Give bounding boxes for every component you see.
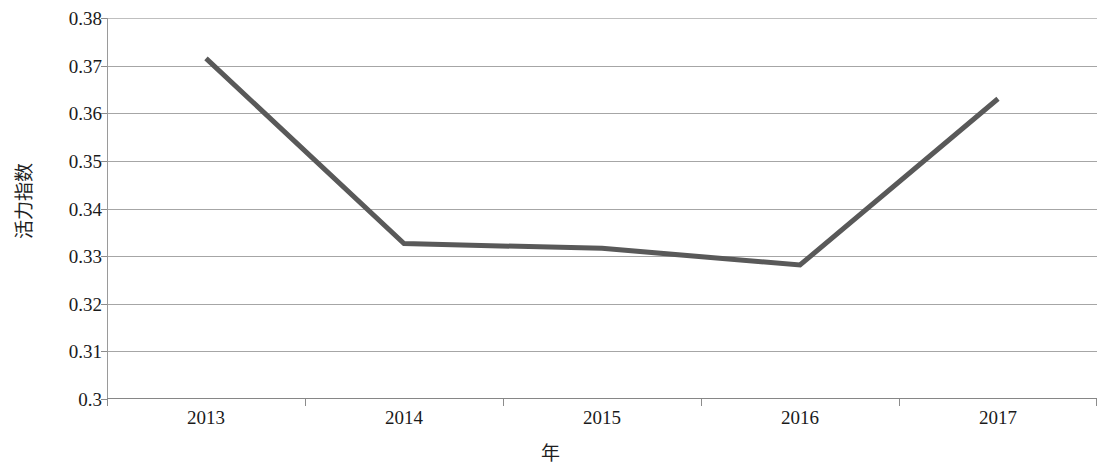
x-axis-title: 年 — [0, 438, 1104, 465]
x-axis-tick — [701, 399, 702, 406]
y-tick-label: 0.33 — [46, 247, 102, 266]
y-tick-label: 0.32 — [46, 294, 102, 313]
y-tick-label: 0.36 — [46, 104, 102, 123]
x-axis-tick — [305, 399, 306, 406]
y-axis-tick-labels: 0.38 0.37 0.36 0.35 0.34 0.33 0.32 0.31 … — [46, 0, 102, 400]
x-tick-label: 2015 — [542, 406, 662, 430]
x-axis-tick — [899, 399, 900, 406]
y-axis-title-label: 活力指数 — [9, 162, 36, 238]
x-tick-label: 2017 — [938, 406, 1058, 430]
x-axis-tick — [107, 399, 108, 406]
x-axis-tick — [1096, 399, 1097, 406]
y-tick-label: 0.3 — [46, 390, 102, 409]
y-tick-label: 0.38 — [46, 9, 102, 28]
y-tick-label: 0.31 — [46, 342, 102, 361]
x-axis-title-label: 年 — [541, 442, 560, 464]
x-axis-tick-labels: 2013 2014 2015 2016 2017 — [107, 406, 1097, 432]
x-axis-line — [107, 398, 1097, 399]
y-axis-title: 活力指数 — [0, 0, 44, 400]
series-line-vitality-index — [107, 18, 1097, 398]
line-chart: 活力指数 0.38 0.37 0.36 0.35 0.34 0.33 0.32 … — [0, 0, 1104, 468]
x-tick-label: 2014 — [344, 406, 464, 430]
x-tick-label: 2013 — [146, 406, 266, 430]
y-tick-label: 0.35 — [46, 151, 102, 170]
x-axis-tick — [503, 399, 504, 406]
x-tick-label: 2016 — [740, 406, 860, 430]
y-tick-label: 0.37 — [46, 56, 102, 75]
plot-area — [107, 18, 1097, 398]
y-axis-line — [107, 18, 108, 399]
y-tick-label: 0.34 — [46, 199, 102, 218]
